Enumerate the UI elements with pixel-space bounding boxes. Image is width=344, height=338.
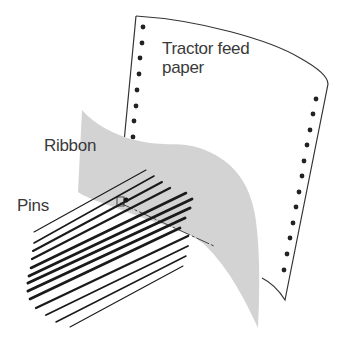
paper-label-line2: paper: [162, 59, 204, 77]
ribbon-label: Ribbon: [44, 137, 96, 155]
paper-label-line1: Tractor feed: [162, 40, 249, 58]
sprocket-holes-left: [131, 25, 146, 140]
pins-label: Pins: [17, 197, 49, 215]
printer-mechanism-diagram: Tractor feed paper Ribbon Pins: [0, 0, 344, 338]
